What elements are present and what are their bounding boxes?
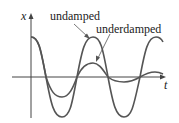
underdamped-curve xyxy=(31,37,163,97)
x-axis-label: t xyxy=(164,79,167,91)
y-axis-label: x xyxy=(21,10,26,22)
underdamped-label: underdamped xyxy=(96,23,161,35)
underdamped-arrowhead-icon xyxy=(96,56,100,63)
x-axis-arrow-icon xyxy=(29,13,34,19)
undamped-label: undamped xyxy=(50,10,100,22)
